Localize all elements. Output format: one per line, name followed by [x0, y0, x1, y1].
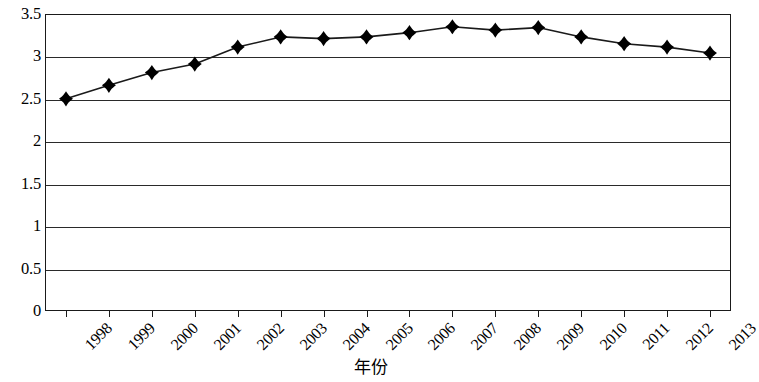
x-axis-tick-label: 2004 [340, 320, 373, 353]
x-axis-tick-label: 2009 [554, 320, 587, 353]
x-axis-tick-label: 2003 [297, 320, 330, 353]
x-axis-tick-label: 2001 [211, 320, 244, 353]
x-axis-tick-label: 2006 [425, 320, 458, 353]
x-axis-tick-label: 2012 [683, 320, 716, 353]
x-axis-tick-label: 2010 [597, 320, 630, 353]
x-axis-tick-label: 2011 [640, 320, 673, 353]
x-axis-tick-label: 2008 [511, 320, 544, 353]
x-axis-tick-label: 2013 [726, 320, 759, 353]
x-axis-tick-label: 1998 [82, 320, 115, 353]
x-axis-title: 年份 [0, 357, 741, 377]
x-axis-tick-label: 2002 [254, 320, 287, 353]
x-axis-tick-label: 2005 [383, 320, 416, 353]
x-axis-tick-label: 1999 [125, 320, 158, 353]
x-axis-tick-label: 2000 [168, 320, 201, 353]
x-axis-tick-label: 2007 [468, 320, 501, 353]
